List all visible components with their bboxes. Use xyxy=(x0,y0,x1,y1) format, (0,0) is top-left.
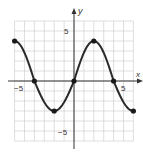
y-axis-label: y xyxy=(77,6,83,16)
x-axis-label: x xyxy=(135,70,141,79)
function-graph: y x −5 5 5 −5 xyxy=(0,0,143,154)
y-axis-arrow-icon xyxy=(72,8,77,14)
data-point xyxy=(91,38,96,43)
x-tick-pos5: 5 xyxy=(121,84,126,93)
data-point xyxy=(131,108,136,113)
data-point xyxy=(32,78,37,83)
data-point xyxy=(71,78,76,83)
x-tick-neg5: −5 xyxy=(14,84,24,93)
data-point xyxy=(111,78,116,83)
y-tick-pos5: 5 xyxy=(64,27,69,36)
data-point xyxy=(12,38,17,43)
data-point xyxy=(52,108,57,113)
y-tick-neg5: −5 xyxy=(58,128,68,137)
x-axis-arrow-icon xyxy=(137,79,143,84)
